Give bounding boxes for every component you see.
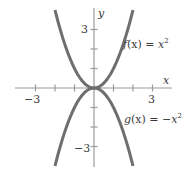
f-label-arg: (x) = (127, 38, 158, 51)
y-axis-label: y (97, 7, 105, 20)
parabola-chart: x y −3 3 3 −3 f(x) = x2 g(x) = −x2 (0, 0, 184, 173)
x-tick-label-neg3: −3 (24, 93, 40, 106)
g-label-sup: 2 (177, 112, 181, 120)
y-tick-label-3: 3 (81, 23, 88, 36)
g-label-arg: (x) = − (131, 113, 171, 126)
x-axis-label: x (163, 74, 170, 87)
y-tick-label-neg3: −3 (74, 142, 90, 155)
g-label-fn: g (124, 113, 131, 126)
g-curve-label: g(x) = −x2 (124, 112, 182, 126)
x-tick-label-3: 3 (148, 93, 155, 106)
f-label-sup: 2 (164, 37, 168, 45)
f-curve-label: f(x) = x2 (122, 37, 169, 51)
